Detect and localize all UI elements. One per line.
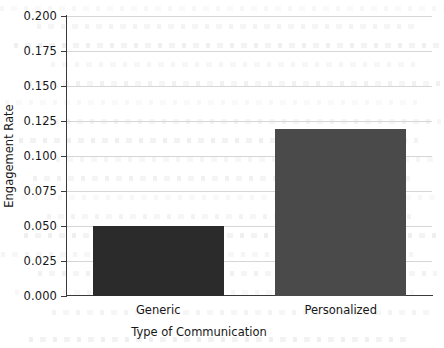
plot-area bbox=[67, 16, 432, 296]
y-axis-tick-mark bbox=[61, 226, 67, 227]
y-axis-tick-label: 0.000 bbox=[24, 289, 57, 303]
y-axis-tick-label: 0.100 bbox=[24, 149, 57, 163]
y-axis-tick-mark bbox=[61, 121, 67, 122]
y-axis-title: Engagement Rate bbox=[2, 104, 16, 207]
gridline bbox=[67, 121, 432, 122]
y-axis-tick-label: 0.025 bbox=[24, 254, 57, 268]
y-axis-tick-label: 0.050 bbox=[24, 219, 57, 233]
x-axis-title-text: Type of Communication bbox=[131, 325, 266, 339]
y-axis-tick-mark bbox=[61, 51, 67, 52]
gridline bbox=[67, 86, 432, 87]
gridline bbox=[67, 16, 432, 17]
y-axis-tick-mark bbox=[61, 86, 67, 87]
y-axis-tick-label: 0.200 bbox=[24, 9, 57, 23]
y-axis-tick-mark bbox=[61, 296, 67, 297]
y-axis-tick-mark bbox=[61, 191, 67, 192]
x-axis-tick-label: Personalized bbox=[305, 303, 378, 317]
bar[interactable] bbox=[93, 226, 224, 296]
y-axis-tick-label: 0.150 bbox=[24, 79, 57, 93]
bar-chart-figure: 0.0000.0250.0500.0750.1000.1250.1500.175… bbox=[0, 0, 444, 348]
y-axis-tick-mark bbox=[61, 261, 67, 262]
bar[interactable] bbox=[275, 129, 406, 296]
y-axis-tick-mark bbox=[61, 16, 67, 17]
x-axis-tick-label: Generic bbox=[136, 303, 181, 317]
x-axis-title: Type of Communication bbox=[0, 325, 444, 339]
y-axis-tick-label: 0.075 bbox=[24, 184, 57, 198]
gridline bbox=[67, 51, 432, 52]
y-axis-tick-label: 0.125 bbox=[24, 114, 57, 128]
y-axis-tick-label: 0.175 bbox=[24, 44, 57, 58]
y-axis-tick-mark bbox=[61, 156, 67, 157]
